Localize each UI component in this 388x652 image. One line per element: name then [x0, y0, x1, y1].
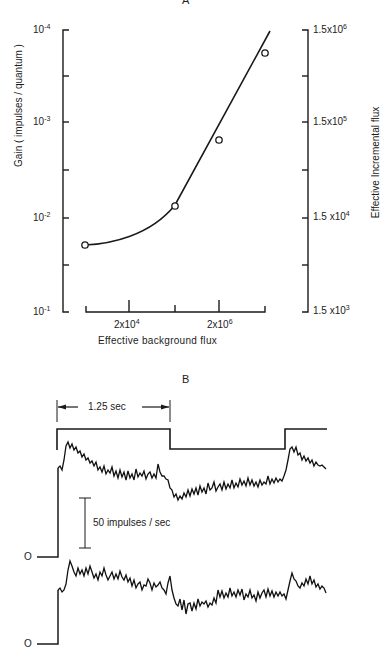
tick-exp: 6 — [229, 318, 233, 325]
x-axis-title: Effective background flux — [98, 335, 217, 346]
y-tick-1e-2: 10-2 — [33, 212, 50, 223]
tick-exp: 5 — [343, 115, 347, 122]
tick-base: 10 — [33, 116, 44, 127]
tick-base: 10 — [33, 212, 44, 223]
x-tick-2e4: 2x104 — [114, 319, 140, 330]
x-tick-2e6: 2x106 — [207, 319, 233, 330]
fit-curve — [85, 31, 270, 245]
y2-tick-2: 1.5x105 — [313, 116, 347, 127]
tick-exp: -2 — [44, 211, 50, 218]
y-tick-1e-3: 10-3 — [33, 116, 50, 127]
tick-base: 2x10 — [114, 319, 136, 330]
baseline-zero-1: O — [24, 551, 32, 562]
figure-canvas — [0, 0, 388, 652]
y-tick-1e-1: 10-1 — [33, 306, 50, 317]
time-scale-label: 1.25 sec — [88, 401, 126, 412]
tick-exp: 4 — [346, 210, 350, 217]
rate-scale-label: 50 impulses / sec — [93, 517, 170, 528]
tick-exp: -1 — [44, 305, 50, 312]
y2-tick-1: 1.5x106 — [313, 24, 347, 35]
response-trace-2 — [58, 561, 326, 614]
panel-b-label: B — [182, 373, 189, 385]
tick-base: 2x10 — [207, 319, 229, 330]
data-points — [82, 50, 268, 248]
tick-base: 10 — [33, 24, 44, 35]
baseline-zero-2: O — [24, 638, 32, 649]
tick-exp: 3 — [346, 304, 350, 311]
panel-a-axes — [63, 30, 308, 312]
response-trace-1 — [58, 442, 326, 500]
y-axis-title: Gain ( impulses / quantum ) — [13, 36, 24, 176]
y2-axis-title: Effective Incremental flux — [370, 88, 381, 238]
tick-base: 10 — [33, 306, 44, 317]
stimulus-trace — [57, 429, 327, 450]
tick-base: 1.5x10 — [313, 116, 343, 127]
tick-exp: -3 — [44, 115, 50, 122]
tick-base: 1.5 x10 — [313, 211, 346, 222]
y2-tick-3: 1.5 x104 — [313, 211, 350, 222]
right-y-axis — [302, 30, 308, 312]
left-y-axis — [63, 30, 69, 312]
y-tick-1e-4: 10-4 — [33, 24, 50, 35]
tick-exp: 4 — [136, 318, 140, 325]
y2-tick-4: 1.5 x103 — [313, 305, 350, 316]
tick-exp: 6 — [343, 23, 347, 30]
tick-base: 1.5x10 — [313, 24, 343, 35]
tick-exp: -4 — [44, 23, 50, 30]
tick-base: 1.5 x10 — [313, 305, 346, 316]
